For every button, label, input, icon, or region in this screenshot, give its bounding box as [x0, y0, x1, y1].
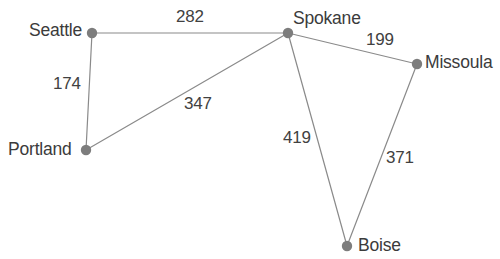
edge-spokane-missoula — [288, 33, 417, 64]
node-missoula[interactable] — [412, 59, 422, 69]
node-label-portland: Portland — [8, 140, 72, 159]
edge-portland-spokane — [86, 33, 288, 150]
node-label-boise: Boise — [358, 236, 401, 255]
edges-group — [86, 33, 417, 246]
edge-label-spokane-missoula: 199 — [366, 30, 394, 49]
node-label-seattle: Seattle — [29, 21, 82, 40]
edge-label-seattle-portland: 174 — [53, 74, 81, 93]
nodes-group — [81, 28, 422, 251]
node-seattle[interactable] — [87, 28, 97, 38]
edge-label-spokane-boise: 419 — [283, 128, 311, 147]
graph-diagram: Seattle Spokane Missoula Portland Boise … — [0, 0, 500, 259]
edge-label-portland-spokane: 347 — [184, 94, 212, 113]
edge-label-seattle-spokane: 282 — [176, 7, 204, 26]
node-spokane[interactable] — [283, 28, 293, 38]
node-boise[interactable] — [342, 241, 352, 251]
node-label-missoula: Missoula — [425, 53, 492, 72]
node-label-spokane: Spokane — [293, 9, 361, 28]
edge-seattle-portland — [86, 33, 92, 150]
edge-label-missoula-boise: 371 — [386, 148, 414, 167]
node-portland[interactable] — [81, 145, 91, 155]
